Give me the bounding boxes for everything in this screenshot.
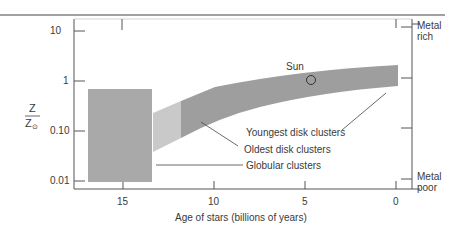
leader-youngest xyxy=(342,93,386,130)
oldest-disk-band xyxy=(153,101,181,152)
metal-rich-label-line2: rich xyxy=(417,31,433,42)
y-tick-label-1: 1 xyxy=(63,75,69,86)
x-tick-label-10: 10 xyxy=(208,196,219,207)
y-tick-label-0.01: 0.01 xyxy=(50,175,69,186)
x-tick-label-5: 5 xyxy=(302,196,308,207)
x-ticks-top xyxy=(122,19,396,30)
z-letter: Z xyxy=(25,117,32,129)
metal-rich-label-line1: Metal xyxy=(417,20,441,31)
x-tick-label-15: 15 xyxy=(117,196,128,207)
y-tick-label-0.10: 0.10 xyxy=(50,125,69,136)
sun-annotation: Sun xyxy=(286,61,304,72)
y-tick-label-10: 10 xyxy=(50,25,61,36)
globular-clusters-label: Globular clusters xyxy=(246,160,321,171)
y-axis-label-denominator: Z⊙ xyxy=(25,118,38,132)
metal-poor-label-line2: poor xyxy=(417,182,437,193)
metal-poor-label-line1: Metal xyxy=(417,171,441,182)
y-axis-label-numerator: Z xyxy=(29,103,36,114)
oldest-disk-clusters-label: Oldest disk clusters xyxy=(244,144,331,155)
leader-oldest xyxy=(201,122,238,146)
sun-symbol-icon: ⊙ xyxy=(32,123,38,130)
youngest-disk-clusters-label: Youngest disk clusters xyxy=(246,127,345,138)
y-ticks xyxy=(74,31,85,181)
globular-clusters-region xyxy=(88,89,152,182)
x-tick-label-0: 0 xyxy=(393,196,399,207)
x-ticks xyxy=(123,181,396,189)
x-axis-label: Age of stars (billions of years) xyxy=(175,212,307,223)
y-ticks-right xyxy=(401,27,412,179)
